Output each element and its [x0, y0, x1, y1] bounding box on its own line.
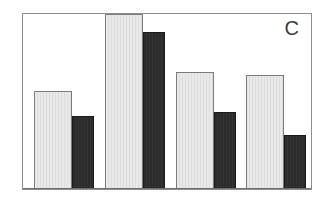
plot-frame: C — [22, 13, 312, 190]
group-4-dark-bar — [284, 135, 306, 189]
x-axis-baseline — [23, 188, 311, 189]
panel-label: C — [285, 18, 299, 38]
group-3-dark-bar — [214, 112, 236, 189]
group-2-light-bar — [105, 14, 143, 189]
group-2-dark-bar — [143, 32, 165, 190]
group-1-light-bar — [34, 91, 72, 189]
figure-root: C — [0, 0, 332, 201]
group-3-light-bar — [176, 72, 214, 189]
group-4-light-bar — [246, 75, 284, 189]
bars-layer — [23, 14, 311, 189]
group-1-dark-bar — [72, 116, 94, 190]
